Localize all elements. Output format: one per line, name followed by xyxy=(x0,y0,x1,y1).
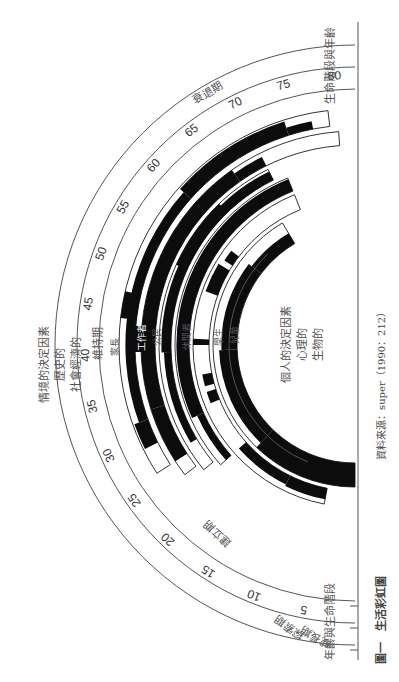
axis-label-age-stage: 年齡與生命階段 xyxy=(323,583,337,660)
role-label-citizen: 公民 xyxy=(152,328,162,346)
role-label-worker: 工作者 xyxy=(136,324,147,351)
age-tick-45: 45 xyxy=(80,296,96,312)
figure-caption: 圖一 生活彩虹圖 xyxy=(374,576,388,664)
personal-title: 個人的決定因素 xyxy=(279,306,293,383)
role-label-leisurite: 休閒者 xyxy=(181,323,192,350)
age-tick-65: 65 xyxy=(182,120,201,139)
age-tick-70: 70 xyxy=(226,94,244,113)
age-tick-25: 25 xyxy=(124,491,143,510)
role-label-child: 兒童 xyxy=(229,326,240,344)
axis-label-stage-age: 生命階段與年齡 xyxy=(323,27,337,104)
age-tick-50: 50 xyxy=(92,245,110,263)
life-career-rainbow-figure: 5101520253035404550556065707580 成長期 探索期 … xyxy=(0,0,399,682)
stage-label-establishment: 建立期 xyxy=(200,518,234,550)
figure-source: 資料來源：super（1990：212） xyxy=(375,307,387,460)
ring-student-band-4 xyxy=(193,339,209,345)
age-tick-15: 15 xyxy=(199,562,218,581)
age-tick-55: 55 xyxy=(113,197,132,216)
age-tick-60: 60 xyxy=(144,155,164,175)
age-tick-75: 75 xyxy=(275,76,292,93)
personal-line-biological: 生物的 xyxy=(311,328,325,361)
ring-child-band-2 xyxy=(221,264,261,350)
age-tick-20: 20 xyxy=(158,530,178,550)
role-label-student: 學生 xyxy=(213,328,224,346)
personal-line-psychological: 心理的 xyxy=(295,328,309,361)
situational-title: 情境的決定因素 xyxy=(37,326,51,403)
rainbow-diagram: 5101520253035404550556065707580 成長期 探索期 … xyxy=(0,0,399,682)
role-label-homemaker: 家長 xyxy=(109,338,120,356)
situational-line-historical: 歷史的 xyxy=(53,348,67,381)
age-tick-35: 35 xyxy=(84,398,101,415)
stage-label-maintenance: 維持期 xyxy=(91,327,105,360)
situational-line-socioeconomic: 社會經濟的 xyxy=(69,337,83,392)
age-tick-5: 5 xyxy=(299,602,309,617)
